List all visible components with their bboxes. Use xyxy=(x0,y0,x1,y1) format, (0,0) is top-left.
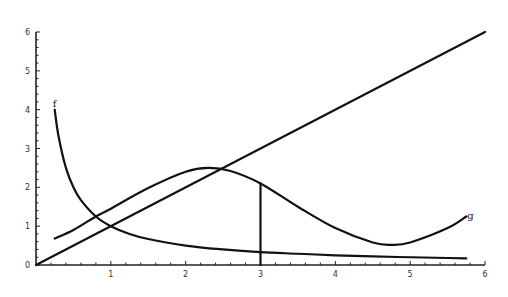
y-tick-label: 3 xyxy=(25,145,30,154)
y-tick-label: 0 xyxy=(25,261,30,270)
x-tick-label: 1 xyxy=(108,270,113,279)
x-tick-label: 5 xyxy=(408,270,413,279)
y-tick-label: 1 xyxy=(25,222,30,231)
y-tick-label: 4 xyxy=(25,106,30,115)
curve-label-g: g xyxy=(467,210,474,221)
y-tick-label: 6 xyxy=(25,28,30,37)
x-tick-label: 2 xyxy=(183,270,188,279)
chart: 1234560123456 f g xyxy=(0,0,508,297)
y-tick-label: 2 xyxy=(25,183,30,192)
y-tick-label: 5 xyxy=(25,67,30,76)
x-tick-label: 3 xyxy=(258,270,263,279)
x-tick-label: 4 xyxy=(333,270,338,279)
x-tick-label: 6 xyxy=(482,270,487,279)
curve-label-f: f xyxy=(53,98,58,109)
